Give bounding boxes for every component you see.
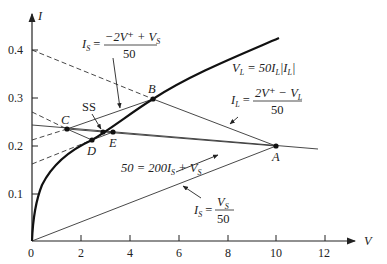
equation-is-bottom: IS = VS 50: [193, 195, 234, 226]
equation-constraint: 50 = 200IS + VS: [121, 161, 201, 177]
label-ss: SS: [82, 100, 96, 114]
x-tick-8: 8: [225, 246, 231, 260]
dashed-guide-mid: [32, 129, 67, 140]
svg-text:50 = 200IS + VS: 50 = 200IS + VS: [121, 161, 201, 177]
svg-text:50: 50: [123, 47, 136, 61]
svg-text:IS =: IS =: [193, 203, 212, 219]
label-d: D: [86, 144, 96, 158]
equation-il: IL = 2V⁺ − VL 50: [230, 86, 303, 117]
line-is-top-solid: [153, 99, 276, 146]
label-c: C: [61, 113, 70, 127]
x-axis-label: V: [364, 234, 373, 248]
label-e: E: [108, 136, 117, 150]
arrow-ss: [92, 114, 101, 129]
x-tick-2: 2: [78, 246, 84, 260]
equation-is-top: IS = −2V⁺ + VS 50: [81, 30, 160, 61]
x-tick-0: 0: [28, 246, 34, 260]
point-e: [110, 129, 115, 134]
svg-text:IS =: IS =: [81, 37, 100, 53]
y-ticks: [32, 50, 38, 194]
line-c-b: [67, 99, 153, 129]
label-b: B: [148, 82, 156, 96]
y-tick-0.1: 0.1: [8, 187, 23, 201]
y-tick-0.4: 0.4: [8, 43, 23, 57]
x-tick-6: 6: [176, 246, 182, 260]
x-tick-4: 4: [127, 246, 133, 260]
svg-text:VS: VS: [217, 195, 229, 211]
svg-text:2V⁺ − VL: 2V⁺ − VL: [255, 86, 303, 102]
annotation-arrows: [92, 58, 238, 198]
svg-text:−2V⁺ + VS: −2V⁺ + VS: [105, 30, 160, 46]
x-tick-10: 10: [270, 246, 282, 260]
svg-text:VL = 50IL|IL|: VL = 50IL|IL|: [232, 61, 295, 77]
svg-text:IL =: IL =: [230, 93, 250, 109]
x-tick-12: 12: [318, 246, 330, 260]
equation-load-curve: VL = 50IL|IL|: [232, 61, 295, 77]
svg-text:50: 50: [271, 103, 284, 117]
svg-text:50: 50: [217, 212, 230, 226]
x-ticks: [81, 235, 325, 241]
axes: V I 0 2 4 6 8 10 12 0.1 0.2 0.3 0.4: [8, 9, 373, 260]
diagram-root: V I 0 2 4 6 8 10 12 0.1 0.2 0.3 0.4: [0, 0, 387, 264]
arrow-is-bottom: [183, 186, 201, 198]
point-d: [89, 137, 94, 142]
y-tick-0.3: 0.3: [8, 91, 23, 105]
load-line-diagram: V I 0 2 4 6 8 10 12 0.1 0.2 0.3 0.4: [0, 0, 387, 264]
y-axis-label: I: [37, 9, 43, 23]
arrow-il: [230, 117, 238, 124]
point-a: [273, 143, 278, 148]
point-c: [64, 126, 69, 131]
point-b: [150, 96, 155, 101]
y-tick-0.2: 0.2: [8, 139, 23, 153]
point-ss: [100, 129, 105, 134]
label-a: A: [271, 150, 280, 164]
